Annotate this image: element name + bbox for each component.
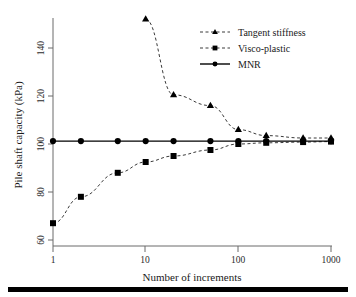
bottom-rule bbox=[8, 287, 348, 292]
data-point bbox=[235, 138, 241, 144]
data-point bbox=[171, 153, 177, 159]
data-point bbox=[207, 102, 214, 108]
y-tick-label: 120 bbox=[36, 89, 46, 104]
data-point bbox=[115, 170, 121, 176]
data-point bbox=[300, 138, 306, 144]
square-icon bbox=[213, 46, 218, 51]
data-point bbox=[170, 91, 177, 97]
x-axis-tick-labels: 1 10 100 1000 bbox=[51, 255, 341, 265]
legend-label: Visco-plastic bbox=[238, 43, 291, 54]
y-tick-label: 140 bbox=[36, 41, 46, 56]
data-point bbox=[170, 138, 176, 144]
series-line bbox=[53, 142, 331, 224]
data-point bbox=[78, 138, 84, 144]
triangle-icon bbox=[212, 29, 218, 34]
data-point bbox=[263, 132, 270, 138]
series-mnr bbox=[50, 138, 334, 144]
data-point bbox=[143, 159, 149, 165]
legend-entry[interactable]: Visco-plastic bbox=[200, 43, 291, 54]
data-point bbox=[328, 138, 334, 144]
series-layer bbox=[50, 15, 335, 226]
x-tick-label: 10 bbox=[140, 255, 150, 265]
chart-legend: Tangent stiffnessVisco-plasticMNR bbox=[200, 27, 306, 70]
data-point bbox=[142, 15, 149, 21]
x-tick-label: 1000 bbox=[322, 255, 341, 265]
data-point bbox=[50, 138, 56, 144]
y-tick-label: 80 bbox=[36, 187, 46, 197]
circle-icon bbox=[213, 62, 218, 67]
y-tick-label: 60 bbox=[36, 235, 46, 245]
data-point bbox=[207, 147, 213, 153]
data-point bbox=[78, 194, 84, 200]
x-tick-label: 1 bbox=[51, 255, 56, 265]
x-axis-ticks bbox=[53, 246, 331, 252]
legend-entry[interactable]: Tangent stiffness bbox=[200, 27, 306, 38]
data-point bbox=[207, 138, 213, 144]
y-tick-label: 100 bbox=[36, 137, 46, 152]
figure-container: 140 120 100 80 60 Pile shaft capacity (k… bbox=[0, 0, 356, 297]
data-point bbox=[263, 138, 269, 144]
x-tick-label: 100 bbox=[231, 255, 246, 265]
data-point bbox=[235, 126, 242, 132]
data-point bbox=[50, 220, 56, 226]
x-axis-label: Number of increments bbox=[143, 271, 242, 283]
y-axis-tick-labels: 140 120 100 80 60 bbox=[36, 41, 46, 245]
data-point bbox=[143, 138, 149, 144]
series-visco-plastic bbox=[50, 139, 334, 227]
pile-shaft-capacity-chart: 140 120 100 80 60 Pile shaft capacity (k… bbox=[0, 0, 356, 297]
legend-label: Tangent stiffness bbox=[238, 27, 306, 38]
y-axis-label: Pile shaft capacity (kPa) bbox=[12, 81, 25, 189]
legend-entry[interactable]: MNR bbox=[200, 59, 261, 70]
data-point bbox=[115, 138, 121, 144]
legend-label: MNR bbox=[238, 59, 261, 70]
